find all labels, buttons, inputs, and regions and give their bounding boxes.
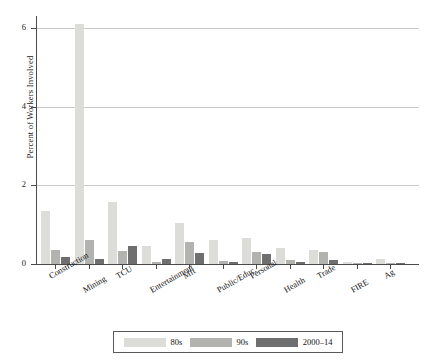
x-tick-9 xyxy=(357,265,358,269)
bar-80s-5 xyxy=(209,240,218,264)
bar-90s-2 xyxy=(118,251,127,264)
bar-80s-10 xyxy=(376,259,385,264)
bar-80s-7 xyxy=(276,248,285,264)
bar-group-trade xyxy=(309,16,339,264)
bar-2000-14-4 xyxy=(195,253,204,264)
legend-label-90s: 90s xyxy=(237,338,249,347)
legend-swatch-80s xyxy=(124,338,166,347)
bar-2000-14-9 xyxy=(363,263,372,264)
x-category-label-2: TCU xyxy=(114,264,134,281)
x-category-label-1: Mining xyxy=(81,273,108,294)
x-category-label-10: Ag xyxy=(382,267,396,281)
bar-group-mining xyxy=(75,16,105,264)
bar-90s-9 xyxy=(353,263,362,264)
bar-2000-14-3 xyxy=(162,259,171,264)
y-tick-label-4: 4 xyxy=(0,102,26,111)
bar-group-personal xyxy=(242,16,272,264)
bar-group-tcu xyxy=(108,16,138,264)
legend-label-80s: 80s xyxy=(171,338,183,347)
bar-group-fire xyxy=(343,16,373,264)
legend-swatch-90s xyxy=(190,338,232,347)
bar-group-health xyxy=(276,16,306,264)
x-tick-3 xyxy=(156,265,157,269)
bar-group-construction xyxy=(41,16,71,264)
x-axis-line xyxy=(36,264,419,265)
bar-80s-3 xyxy=(142,246,151,264)
bar-group-entertainment xyxy=(142,16,172,264)
bar-90s-6 xyxy=(252,252,261,264)
bar-80s-1 xyxy=(75,24,84,264)
bar-group-public-educ xyxy=(209,16,239,264)
x-tick-1 xyxy=(89,265,90,269)
bar-90s-10 xyxy=(386,263,395,264)
bar-90s-8 xyxy=(319,252,328,264)
legend-item-2000-14: 2000–14 xyxy=(256,338,333,347)
x-tick-5 xyxy=(223,265,224,269)
bar-group-ag xyxy=(376,16,406,264)
y-tick-label-6: 6 xyxy=(0,23,26,32)
bar-group-mft xyxy=(175,16,205,264)
bar-90s-7 xyxy=(286,260,295,264)
bar-2000-14-7 xyxy=(296,262,305,264)
bar-2000-14-1 xyxy=(95,259,104,265)
x-category-label-5: Public/Educ. xyxy=(215,264,258,295)
bar-2000-14-2 xyxy=(128,246,137,264)
bar-groups xyxy=(37,16,419,264)
chart-legend: 80s 90s 2000–14 xyxy=(113,331,343,353)
bar-90s-5 xyxy=(219,261,228,264)
legend-item-80s: 80s xyxy=(124,338,183,347)
bar-90s-3 xyxy=(152,262,161,264)
bar-2000-14-5 xyxy=(229,262,238,264)
y-tick-0 xyxy=(31,264,37,265)
bar-2000-14-10 xyxy=(396,263,405,264)
legend-item-90s: 90s xyxy=(190,338,249,347)
bar-80s-4 xyxy=(175,223,184,264)
bar-80s-0 xyxy=(41,211,50,264)
bar-90s-0 xyxy=(51,250,60,264)
x-category-label-7: Health xyxy=(282,275,307,295)
bar-chart-figure: Percent of Workers Involved Construction… xyxy=(0,0,425,364)
bar-80s-8 xyxy=(309,250,318,264)
y-tick-label-0: 0 xyxy=(0,259,26,268)
x-tick-7 xyxy=(290,265,291,269)
bar-80s-6 xyxy=(242,238,251,264)
x-category-label-9: FIRE xyxy=(349,277,370,295)
bar-80s-9 xyxy=(343,262,352,264)
legend-label-2000-14: 2000–14 xyxy=(303,338,333,347)
legend-swatch-2000-14 xyxy=(256,338,298,347)
y-tick-label-2: 2 xyxy=(0,180,26,189)
bar-80s-2 xyxy=(108,202,117,264)
